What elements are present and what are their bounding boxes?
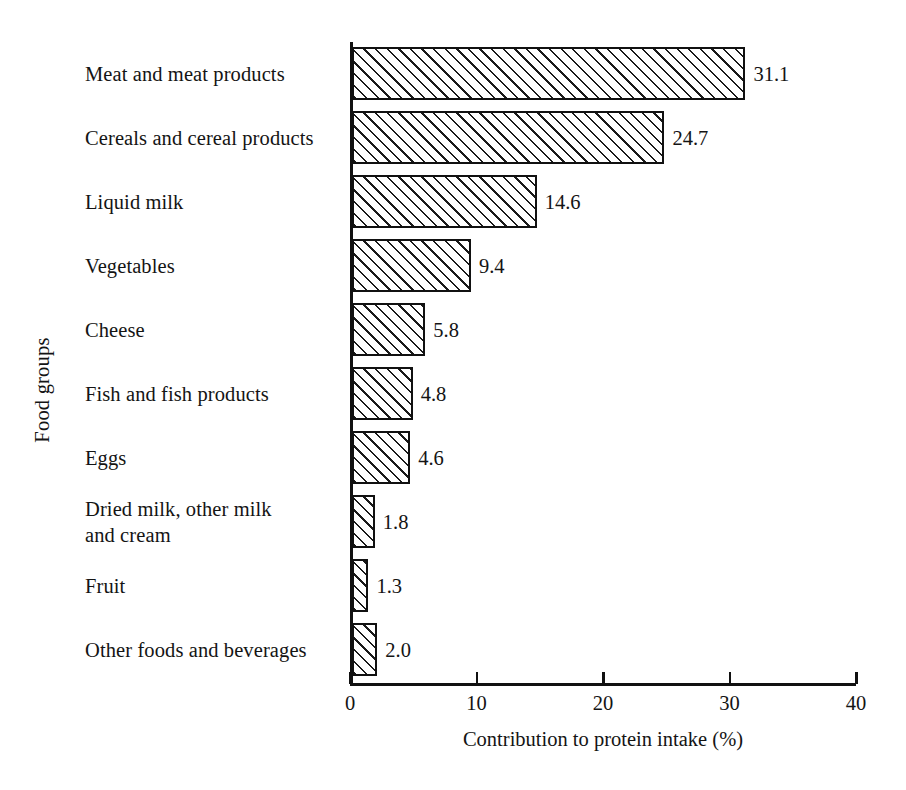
category-label: Fruit — [85, 573, 335, 599]
bar-chart: Food groups Meat and meat products Cerea… — [0, 0, 906, 790]
category-label: Eggs — [85, 445, 335, 471]
x-axis-tick-label: 40 — [846, 692, 867, 715]
bar-value-label: 1.3 — [376, 575, 402, 596]
bar — [352, 111, 664, 164]
category-label: Other foods and beverages — [85, 637, 335, 663]
bar-value-label: 5.8 — [433, 319, 459, 340]
bar — [352, 47, 745, 100]
bar-value-label: 4.8 — [421, 383, 447, 404]
category-label: Dried milk, other milk and cream — [85, 496, 335, 548]
bar — [352, 559, 368, 612]
bar-value-label: 1.8 — [383, 511, 409, 532]
bar-value-label: 2.0 — [385, 639, 411, 660]
bar-value-label: 24.7 — [672, 127, 708, 148]
x-axis-tick — [349, 672, 352, 684]
category-label: Cereals and cereal products — [85, 125, 335, 151]
bar — [352, 303, 425, 356]
x-axis-tick — [729, 672, 732, 684]
bar-value-label: 31.1 — [753, 63, 789, 84]
x-axis-tick-label: 10 — [466, 692, 487, 715]
x-axis-title: Contribution to protein intake (%) — [350, 728, 856, 751]
category-label: Meat and meat products — [85, 61, 335, 87]
category-label: Liquid milk — [85, 189, 335, 215]
x-axis-tick — [602, 672, 605, 684]
category-label-group: Meat and meat products Cereals and cerea… — [0, 0, 340, 790]
bar-value-label: 4.6 — [418, 447, 444, 468]
bar-value-label: 14.6 — [545, 191, 581, 212]
x-axis-tick — [855, 672, 858, 684]
bar — [352, 239, 471, 292]
x-axis-tick-label: 0 — [345, 692, 355, 715]
x-axis-tick-label: 20 — [593, 692, 614, 715]
bar — [352, 175, 537, 228]
bar — [352, 623, 377, 676]
category-label: Vegetables — [85, 253, 335, 279]
bar — [352, 431, 410, 484]
category-label: Fish and fish products — [85, 381, 335, 407]
plot-area: 31.1 24.7 14.6 9.4 5.8 4.8 4.6 1.8 1.3 2… — [350, 42, 856, 683]
bar — [352, 367, 413, 420]
bar-value-label: 9.4 — [479, 255, 505, 276]
bar — [352, 495, 375, 548]
category-label: Cheese — [85, 317, 335, 343]
x-axis-tick — [476, 672, 479, 684]
x-axis-tick-label: 30 — [719, 692, 740, 715]
